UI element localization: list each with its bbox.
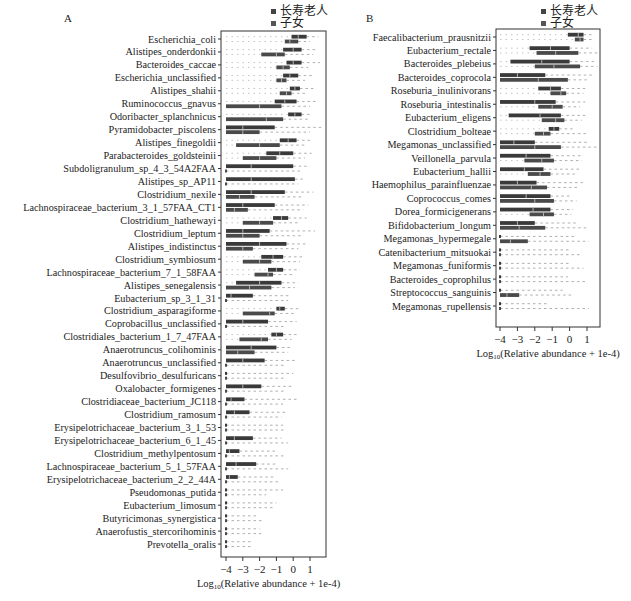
category-label: Clostridium_asparagiforme [104, 305, 217, 316]
category-label: Bifidobacterium_longum [388, 220, 491, 231]
category-label: Roseburia_intestinalis [400, 99, 491, 110]
x-tick-label: −3 [237, 563, 249, 575]
panel-b-plot: −4−3−2−101Log10(Relative abundance + 1e-… [372, 29, 621, 361]
box-iqr [226, 247, 253, 251]
box-collapsed [225, 429, 227, 432]
category-label: Eubacterium_rectale [407, 45, 492, 56]
legend-a-marker-children [271, 21, 276, 26]
box-collapsed [225, 299, 227, 302]
legend-a-label-children: 子女 [280, 15, 304, 30]
category-label: Megamonas_funiformis [393, 260, 491, 271]
category-label: Lachnospiraceae_bacterium_5_1_57FAA [46, 461, 216, 472]
category-label: Eubacterium_limosum [123, 500, 216, 511]
box-iqr [226, 294, 253, 298]
box-iqr [239, 337, 268, 341]
box-iqr [226, 208, 248, 212]
box-iqr [500, 181, 537, 185]
box-iqr [226, 286, 271, 290]
box-collapsed [225, 424, 227, 427]
category-label: Faecalibacterium_prausnitzii [373, 32, 491, 43]
category-label: Bacteroides_plebeius [404, 58, 491, 69]
category-label: Erysipelotrichaceae_bacterium_2_2_44A [47, 474, 217, 485]
box-iqr [500, 73, 545, 77]
box-iqr [226, 350, 255, 354]
x-tick-label: −3 [512, 333, 524, 345]
box-iqr [243, 260, 272, 264]
box-iqr [226, 242, 286, 246]
box-collapsed [225, 527, 227, 530]
category-label: Haemophilus_parainfluenzae [372, 179, 492, 190]
x-tick-label: −4 [494, 333, 506, 345]
box-iqr [226, 359, 265, 363]
x-tick-label: 1 [584, 333, 590, 345]
box-collapsed [225, 540, 227, 543]
box-collapsed [225, 170, 227, 173]
box-iqr [500, 154, 550, 158]
box-iqr [500, 239, 528, 243]
box-iqr [575, 38, 584, 42]
legend-a-marker-elderly [271, 9, 276, 14]
box-iqr [537, 51, 579, 55]
category-label: Pseudomonas_putida [129, 487, 216, 498]
box-iqr [275, 100, 297, 104]
box-iqr [226, 164, 293, 168]
category-label: Clostridium_methylpentosum [94, 448, 216, 459]
x-tick-label: −2 [529, 333, 541, 345]
box-iqr [236, 143, 280, 147]
box-iqr [500, 186, 547, 190]
panel-b-label: B [366, 12, 373, 24]
box-iqr [226, 475, 238, 479]
category-label: Catenibacterium_mitsuokai [378, 247, 491, 258]
box-iqr [276, 307, 284, 311]
x-tick-label: 0 [567, 333, 573, 345]
box-iqr [273, 216, 288, 220]
box-iqr [568, 33, 584, 37]
box-iqr [226, 397, 244, 401]
box-iqr [500, 78, 568, 82]
legend-b-label-children: 子女 [550, 15, 574, 30]
category-label: Anaerotruncus_colihominis [103, 344, 216, 355]
box-iqr [283, 74, 298, 78]
box-collapsed [225, 532, 227, 535]
box-iqr [550, 91, 566, 95]
category-label: Subdoligranulum_sp_4_3_54A2FAA [63, 163, 216, 174]
box-collapsed [225, 501, 227, 504]
category-label: Erysipelotrichaceae_bacterium_6_1_45 [54, 435, 216, 446]
box-iqr [226, 203, 275, 207]
box-collapsed [225, 493, 227, 496]
box-iqr [226, 190, 285, 194]
box-iqr [530, 212, 554, 216]
category-label: Clostridium_hathewayi [120, 215, 216, 226]
legend-b-marker-children [541, 21, 546, 26]
box-iqr [500, 167, 544, 171]
box-iqr [255, 273, 273, 277]
panel-a-label: A [64, 12, 72, 24]
category-label: Odoribacter_splanchnicus [110, 111, 216, 122]
box-collapsed [499, 267, 501, 270]
category-label: Bacteroides_coprophilus [390, 274, 491, 285]
category-label: Clostridium_nexile [137, 189, 216, 200]
box-iqr [535, 65, 580, 69]
box-collapsed [225, 403, 227, 406]
category-label: Alistipes_shahii [150, 85, 216, 96]
box-collapsed [499, 262, 501, 265]
category-label: Veillonella_parvula [411, 153, 491, 164]
box-iqr [286, 61, 301, 65]
box-collapsed [225, 182, 227, 185]
box-iqr [226, 320, 268, 324]
category-label: Escherichia_unclassified [115, 72, 216, 83]
category-label: Alistipes_finegoldii [135, 137, 216, 148]
category-label: Megamonas_hypermegale [384, 233, 492, 244]
box-iqr [530, 46, 570, 50]
box-iqr [236, 281, 281, 285]
category-label: Streptococcus_sanguinis [390, 287, 491, 298]
box-iqr [524, 159, 554, 163]
box-collapsed [225, 467, 227, 470]
category-label: Dorea_formicigenerans [395, 206, 491, 217]
box-iqr [500, 100, 556, 104]
category-label: Coprobacillus_unclassified [105, 318, 216, 329]
category-label: Bacteroides_coprocola [398, 72, 492, 83]
box-iqr [500, 140, 535, 144]
box-collapsed [225, 488, 227, 491]
box-iqr [226, 384, 261, 388]
